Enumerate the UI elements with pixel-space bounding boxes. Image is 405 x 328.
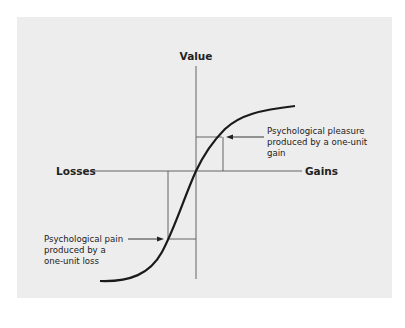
x-axis-left-label: Losses [56,165,96,177]
gain-annotation-line-3: gain [267,148,286,158]
value-function-diagram: Value Losses Gains Psychological pleasur… [0,0,405,328]
y-axis-label: Value [180,50,213,62]
loss-arrow-icon [157,237,164,242]
value-curve [100,106,295,281]
x-axis-right-label: Gains [305,165,338,177]
loss-annotation-line-1: Psychological pain [44,234,123,244]
gain-arrow-icon [226,135,233,140]
gain-annotation-line-2: produced by a one-unit [267,137,368,147]
loss-annotation-line-2: produced by a [44,245,106,255]
loss-annotation-line-3: one-unit loss [44,256,100,266]
gain-annotation-line-1: Psychological pleasure [267,126,365,136]
